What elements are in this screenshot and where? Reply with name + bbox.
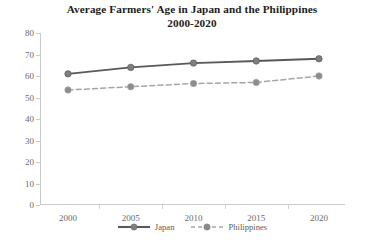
series-plot [40, 33, 345, 205]
y-axis-label: 30 [25, 136, 34, 146]
x-axis-tick [225, 205, 226, 209]
y-axis-label: 20 [25, 157, 34, 167]
y-axis-label: 40 [25, 114, 34, 124]
data-point-japan-2000[interactable] [65, 71, 71, 77]
data-point-japan-2005[interactable] [128, 64, 134, 70]
legend-swatch-philippines-icon [190, 222, 224, 232]
legend-swatch-japan-icon [117, 222, 151, 232]
x-axis-tick [288, 205, 289, 209]
data-point-philippines-2015[interactable] [253, 79, 259, 85]
chart-title-line-1: Average Farmers' Age in Japan and the Ph… [0, 3, 384, 17]
data-point-japan-2020[interactable] [316, 56, 322, 62]
y-axis-label: 80 [25, 28, 34, 38]
data-point-philippines-2010[interactable] [190, 80, 196, 86]
y-axis-label: 50 [25, 93, 34, 103]
chart-title: Average Farmers' Age in Japan and the Ph… [0, 3, 384, 30]
chart-legend: Japan Philippines [0, 222, 384, 232]
data-point-philippines-2020[interactable] [316, 73, 322, 79]
y-axis-label: 10 [25, 179, 34, 189]
x-axis-tick [162, 205, 163, 209]
plot-area: 01020304050607080 20002005201020152020 [40, 33, 345, 205]
legend-item-philippines[interactable]: Philippines [190, 222, 267, 232]
y-axis-label: 0 [30, 200, 35, 210]
legend-label-philippines: Philippines [228, 222, 267, 232]
x-axis-tick [99, 205, 100, 209]
data-point-philippines-2005[interactable] [128, 84, 134, 90]
data-point-japan-2015[interactable] [253, 58, 259, 64]
data-point-japan-2010[interactable] [190, 60, 196, 66]
legend-label-japan: Japan [155, 222, 175, 232]
y-axis-label: 60 [25, 71, 34, 81]
legend-item-japan[interactable]: Japan [117, 222, 175, 232]
chart-title-line-2: 2000-2020 [0, 17, 384, 31]
y-axis-label: 70 [25, 50, 34, 60]
line-chart: Average Farmers' Age in Japan and the Ph… [0, 0, 384, 242]
y-axis-tick [36, 205, 40, 206]
data-point-philippines-2000[interactable] [65, 87, 71, 93]
